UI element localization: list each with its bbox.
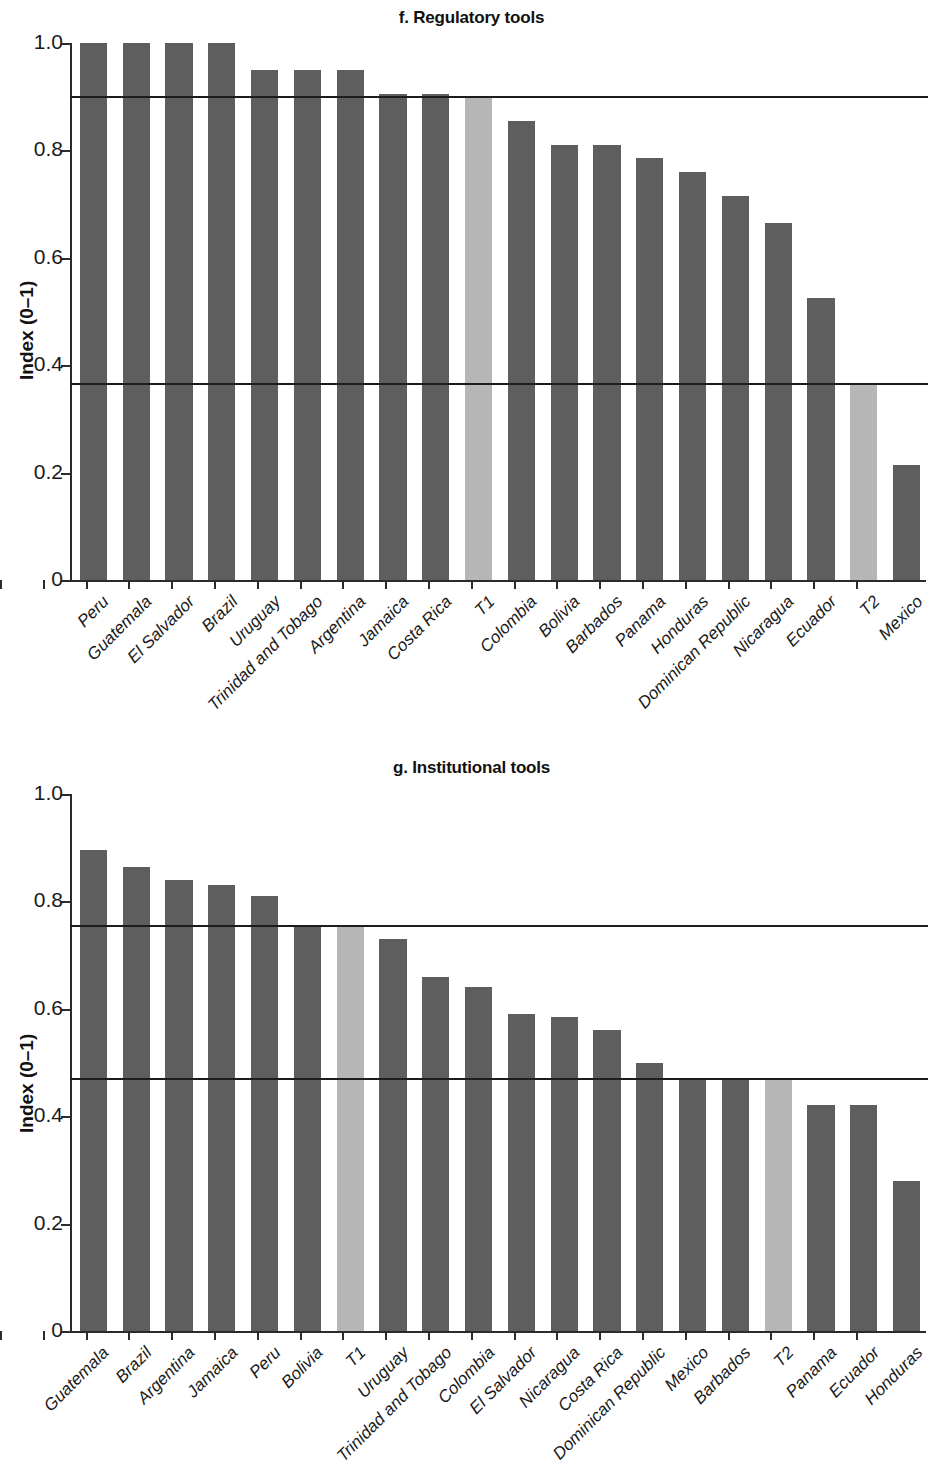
x-tick-mark: [471, 1331, 473, 1340]
bar-mexico: [679, 1079, 706, 1331]
y-tick-label: 0.2: [34, 1212, 63, 1234]
bar-trinidad-and-tobago: [422, 977, 449, 1331]
bar-t1: [337, 926, 364, 1331]
x-tick-mark: [43, 580, 45, 589]
bar-el-salvador: [165, 43, 192, 580]
bar-costa-rica: [422, 94, 449, 580]
x-tick-mark: [471, 580, 473, 589]
x-axis-label: T2: [856, 592, 884, 620]
y-tick-label: 0.6: [34, 997, 63, 1019]
bar-barbados: [722, 1079, 749, 1331]
bar-bolivia: [551, 145, 578, 580]
x-axis-labels-regulatory: PeruGuatemalaEl SalvadorBrazilUruguayTri…: [70, 592, 943, 742]
bar-uruguay: [379, 939, 406, 1331]
y-tick-label: 0.2: [34, 461, 63, 483]
y-tick-label: 1.0: [34, 31, 63, 53]
bar-mexico: [893, 465, 920, 580]
x-axis-label: T1: [471, 592, 499, 620]
x-tick-mark: [685, 580, 687, 589]
x-axis-label: Guatemala: [41, 1343, 114, 1416]
bar-t2: [765, 1079, 792, 1331]
y-tick-label: 0.4: [34, 353, 63, 375]
x-tick-mark: [0, 1331, 2, 1340]
bar-dominican-republic: [722, 196, 749, 580]
bar-costa-rica: [593, 1030, 620, 1331]
x-tick-mark: [257, 1331, 259, 1340]
bar-bolivia: [294, 926, 321, 1331]
x-tick-mark: [556, 1331, 558, 1340]
bar-series-regulatory: [70, 43, 926, 580]
x-tick-mark: [813, 1331, 815, 1340]
x-tick-mark: [300, 1331, 302, 1340]
x-tick-mark: [599, 580, 601, 589]
bar-ecuador: [850, 1105, 877, 1331]
x-tick-mark: [171, 580, 173, 589]
bar-peru: [80, 43, 107, 580]
x-tick-mark: [856, 1331, 858, 1340]
bar-argentina: [337, 70, 364, 580]
x-tick-mark: [86, 1331, 88, 1340]
bar-t1: [465, 97, 492, 580]
bar-nicaragua: [551, 1017, 578, 1331]
plot-area-regulatory: 00.20.40.60.81.0: [70, 43, 926, 580]
x-tick-mark: [385, 580, 387, 589]
x-tick-mark: [770, 580, 772, 589]
x-tick-mark: [214, 1331, 216, 1340]
x-tick-mark: [257, 580, 259, 589]
x-tick-mark: [342, 580, 344, 589]
x-tick-mark: [514, 1331, 516, 1340]
x-tick-mark: [728, 580, 730, 589]
bar-ecuador: [807, 298, 834, 580]
bar-honduras: [679, 172, 706, 580]
x-tick-mark: [385, 1331, 387, 1340]
bar-panama: [636, 158, 663, 580]
y-tick-label: 0.6: [34, 246, 63, 268]
bar-el-salvador: [508, 1014, 535, 1331]
x-tick-mark: [171, 1331, 173, 1340]
x-tick-mark: [556, 580, 558, 589]
x-tick-mark: [514, 580, 516, 589]
bar-colombia: [465, 987, 492, 1331]
x-tick-mark: [642, 1331, 644, 1340]
bar-jamaica: [208, 885, 235, 1331]
reference-line-t1: [70, 925, 928, 927]
x-axis-label: Bolivia: [278, 1343, 328, 1393]
x-tick-mark: [428, 1331, 430, 1340]
bar-colombia: [508, 121, 535, 580]
bar-guatemala: [123, 43, 150, 580]
x-axis-label: Mexico: [875, 592, 927, 644]
bar-uruguay: [251, 70, 278, 580]
bar-series-institutional: [70, 794, 926, 1331]
x-axis-ticks-regulatory: [0, 580, 856, 589]
bar-guatemala: [80, 850, 107, 1331]
x-tick-mark: [770, 1331, 772, 1340]
reference-line-t2: [70, 383, 928, 385]
x-tick-mark: [685, 1331, 687, 1340]
x-tick-mark: [856, 580, 858, 589]
chart-title-institutional-tools: g. Institutional tools: [0, 758, 943, 778]
y-tick-label: 1.0: [34, 782, 63, 804]
bar-barbados: [593, 145, 620, 580]
x-tick-mark: [342, 1331, 344, 1340]
bar-t2: [850, 384, 877, 580]
x-tick-mark: [43, 1331, 45, 1340]
x-tick-mark: [128, 580, 130, 589]
chart-title-regulatory-tools: f. Regulatory tools: [0, 8, 943, 28]
plot-area-institutional: 00.20.40.60.81.0: [70, 794, 926, 1331]
reference-line-t2: [70, 1078, 928, 1080]
x-tick-mark: [599, 1331, 601, 1340]
bar-brazil: [208, 43, 235, 580]
x-axis-ticks-institutional: [0, 1331, 856, 1340]
y-tick-label: 0.8: [34, 889, 63, 911]
chart-panel-regulatory-tools: f. Regulatory tools Index (0–1) 00.20.40…: [0, 0, 943, 738]
chart-panel-institutional-tools: g. Institutional tools Index (0–1) 00.20…: [0, 738, 943, 1476]
x-tick-mark: [0, 580, 2, 589]
bar-dominican-republic: [636, 1063, 663, 1332]
x-tick-mark: [813, 580, 815, 589]
bar-peru: [251, 896, 278, 1331]
x-tick-mark: [214, 580, 216, 589]
x-axis-label: T2: [770, 1343, 798, 1371]
bar-trinidad-and-tobago: [294, 70, 321, 580]
y-tick-label: 0.4: [34, 1104, 63, 1126]
x-tick-mark: [642, 580, 644, 589]
